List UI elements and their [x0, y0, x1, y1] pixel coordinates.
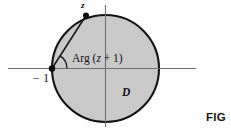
complex-plane-figure: z − 1 Arg (z + 1) D FIG: [0, 0, 231, 131]
label-point-z: z: [81, 1, 85, 10]
label-arg-head: Arg (: [72, 52, 96, 64]
point-marker-minus-one: [49, 65, 55, 71]
figure-drawing-canvas: [0, 0, 231, 131]
label-region-d: D: [122, 87, 130, 99]
label-point-minus-one: − 1: [33, 73, 50, 85]
label-arg-expression: Arg (z + 1): [72, 53, 123, 65]
point-marker-z: [83, 13, 89, 19]
figure-caption-fragment: FIG: [206, 112, 226, 124]
label-arg-tail: + 1): [101, 52, 123, 64]
